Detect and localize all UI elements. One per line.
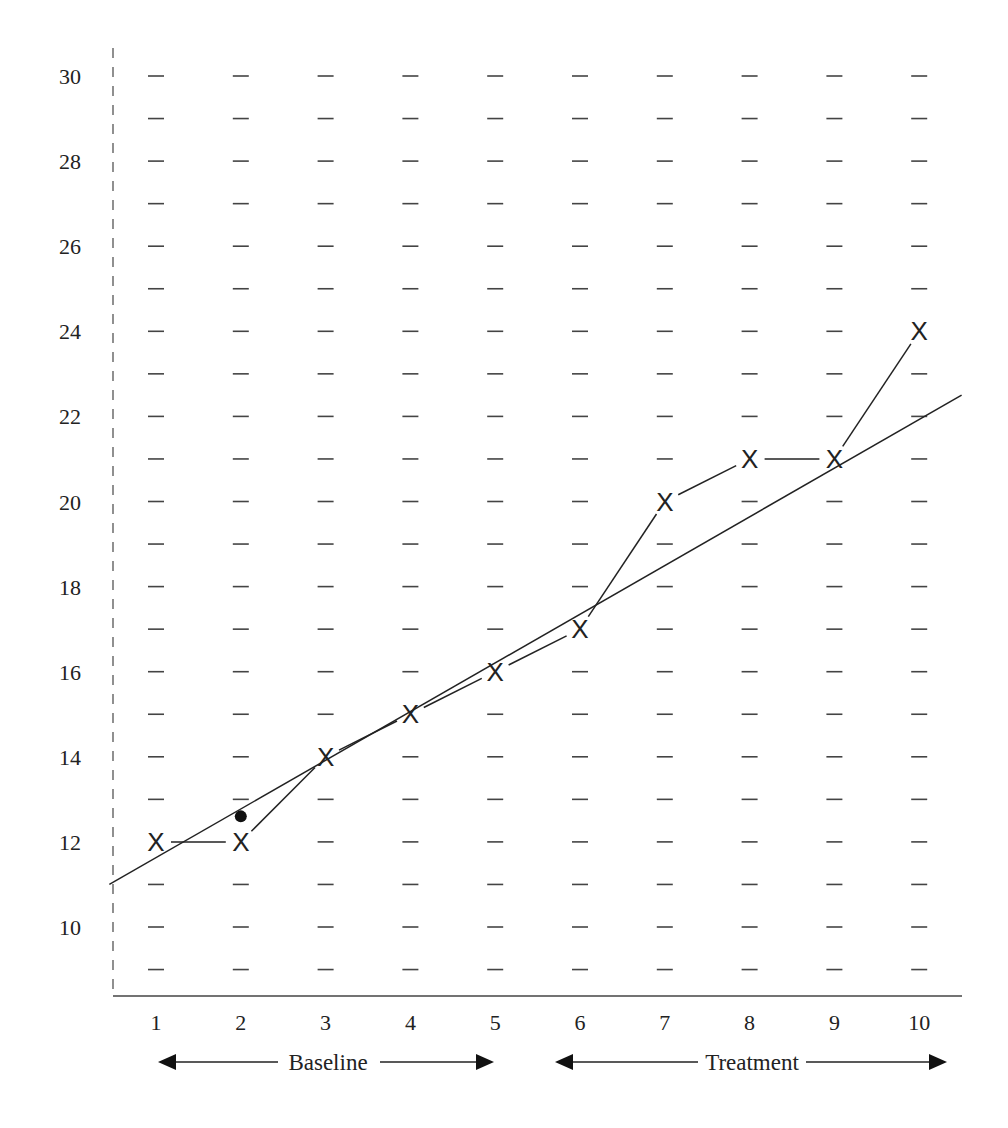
x-marker-icon: X bbox=[317, 742, 334, 772]
y-tick-label: 14 bbox=[59, 745, 81, 770]
data-segment bbox=[424, 678, 482, 707]
y-tick-label: 22 bbox=[59, 404, 81, 429]
data-segment bbox=[678, 466, 736, 495]
x-tick-label: 5 bbox=[490, 1010, 501, 1035]
x-marker-icon: X bbox=[826, 444, 843, 474]
x-tick-label: 2 bbox=[235, 1010, 246, 1035]
x-marker-icon: X bbox=[656, 487, 673, 517]
y-tick-label: 10 bbox=[59, 915, 81, 940]
x-marker-icon: X bbox=[487, 657, 504, 687]
x-tick-label: 6 bbox=[575, 1010, 586, 1035]
data-path-segments bbox=[171, 344, 911, 842]
x-marker-icon: X bbox=[147, 827, 164, 857]
x-tick-label: 3 bbox=[320, 1010, 331, 1035]
data-point-markers: XXXXXXXXXX bbox=[147, 316, 928, 857]
baseline-phase-bracket: Baseline bbox=[158, 1050, 494, 1075]
arrow-left-icon bbox=[555, 1054, 573, 1070]
y-tick-label: 30 bbox=[59, 64, 81, 89]
y-tick-label: 24 bbox=[59, 319, 81, 344]
x-tick-label: 9 bbox=[829, 1010, 840, 1035]
arrow-right-icon bbox=[929, 1054, 947, 1070]
y-tick-label: 18 bbox=[59, 575, 81, 600]
arrow-right-icon bbox=[476, 1054, 494, 1070]
data-segment bbox=[843, 344, 911, 447]
filled-point-marker bbox=[235, 810, 247, 822]
baseline-label: Baseline bbox=[288, 1050, 367, 1075]
data-segment bbox=[251, 767, 315, 831]
y-tick-label: 12 bbox=[59, 830, 81, 855]
x-marker-icon: X bbox=[911, 316, 928, 346]
arrow-left-icon bbox=[158, 1054, 176, 1070]
y-tick-label: 20 bbox=[59, 490, 81, 515]
y-tick-label: 28 bbox=[59, 149, 81, 174]
x-marker-icon: X bbox=[741, 444, 758, 474]
x-tick-label: 1 bbox=[151, 1010, 162, 1035]
x-marker-icon: X bbox=[571, 614, 588, 644]
treatment-phase-bracket: Treatment bbox=[555, 1050, 947, 1075]
single-case-design-chart: 3028262422201816141210 12345678910 XXXXX… bbox=[0, 0, 1008, 1128]
grid-dash-marks bbox=[148, 76, 927, 970]
x-tick-label: 4 bbox=[405, 1010, 416, 1035]
y-tick-label: 26 bbox=[59, 234, 81, 259]
x-marker-icon: X bbox=[232, 827, 249, 857]
data-segment bbox=[588, 514, 656, 617]
y-tick-label: 16 bbox=[59, 660, 81, 685]
x-marker-icon: X bbox=[402, 699, 419, 729]
y-axis-tick-labels: 3028262422201816141210 bbox=[59, 64, 81, 940]
x-tick-label: 7 bbox=[659, 1010, 670, 1035]
x-tick-label: 8 bbox=[744, 1010, 755, 1035]
treatment-label: Treatment bbox=[705, 1050, 799, 1075]
x-axis-tick-labels: 12345678910 bbox=[151, 1010, 931, 1035]
data-segment bbox=[339, 721, 397, 750]
x-tick-label: 10 bbox=[908, 1010, 930, 1035]
